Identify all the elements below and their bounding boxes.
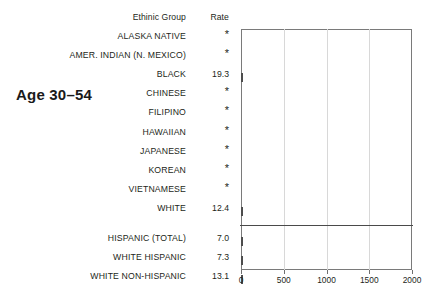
gridline (284, 29, 285, 270)
ethnic-group-rate-table: Ethinic Group Rate ALASKA NATIVE * AMER.… (0, 8, 238, 286)
x-axis: 0500100015002000 (241, 270, 412, 292)
table-header-row: Ethinic Group Rate (0, 8, 238, 26)
row-rate: * (195, 89, 238, 97)
row-label: HISPANIC (TOTAL) (0, 233, 195, 243)
row-rate: 12.4 (195, 203, 238, 213)
gridline (369, 29, 370, 270)
row-rate: 13.1 (195, 271, 238, 281)
column-header-group: Ethinic Group (0, 12, 195, 22)
axis-tick (327, 270, 328, 274)
row-label: CHINESE (0, 88, 195, 98)
bar-white-hispanic (241, 256, 243, 265)
column-header-rate: Rate (195, 12, 238, 22)
bar-chart (241, 29, 412, 270)
table-row: WHITE HISPANIC 7.3 (0, 248, 238, 267)
row-rate: * (195, 32, 238, 40)
axis-tick (412, 270, 413, 274)
row-label: ALASKA NATIVE (0, 31, 195, 41)
axis-tick-label: 1000 (317, 275, 336, 285)
row-label: KOREAN (0, 165, 195, 175)
row-label: FILIPINO (0, 107, 195, 117)
row-rate: 7.0 (195, 233, 238, 243)
table-group-separator (0, 218, 238, 229)
table-row: FILIPINO * (0, 103, 238, 122)
row-label: WHITE HISPANIC (0, 252, 195, 262)
row-rate: 7.3 (195, 252, 238, 262)
table-row: VIETNAMESE * (0, 180, 238, 199)
table-row: BLACK 19.3 (0, 64, 238, 83)
row-rate: * (195, 185, 238, 193)
table-row: WHITE NON-HISPANIC 13.1 (0, 267, 238, 286)
table-row: AMER. INDIAN (N. MEXICO) * (0, 45, 238, 64)
row-rate: * (195, 51, 238, 59)
row-label: WHITE (0, 203, 195, 213)
row-label: HAWAIIAN (0, 127, 195, 137)
chart-section-divider (240, 225, 413, 226)
row-rate: 19.3 (195, 69, 238, 79)
axis-tick-label: 0 (239, 275, 244, 285)
table-row: CHINESE * (0, 84, 238, 103)
row-rate: * (195, 147, 238, 155)
axis-tick (284, 270, 285, 274)
row-rate: * (195, 166, 238, 174)
row-label: VIETNAMESE (0, 184, 195, 194)
table-row: KOREAN * (0, 160, 238, 179)
row-label: BLACK (0, 69, 195, 79)
axis-tick (369, 270, 370, 274)
table-row: WHITE 12.4 (0, 199, 238, 218)
bar-hispanic-total- (241, 237, 243, 246)
table-row: HISPANIC (TOTAL) 7.0 (0, 228, 238, 247)
table-row: JAPANESE * (0, 141, 238, 160)
bar-white (241, 207, 243, 216)
table-row: HAWAIIAN * (0, 122, 238, 141)
bar-black (241, 73, 243, 82)
row-label: WHITE NON-HISPANIC (0, 271, 195, 281)
row-label: JAPANESE (0, 146, 195, 156)
table-row: ALASKA NATIVE * (0, 26, 238, 45)
row-label: AMER. INDIAN (N. MEXICO) (0, 50, 195, 60)
row-rate: * (195, 128, 238, 136)
axis-tick-label: 1500 (360, 275, 379, 285)
gridline (327, 29, 328, 270)
row-rate: * (195, 108, 238, 116)
axis-tick (241, 270, 242, 274)
axis-tick-label: 500 (277, 275, 291, 285)
axis-tick-label: 2000 (403, 275, 422, 285)
